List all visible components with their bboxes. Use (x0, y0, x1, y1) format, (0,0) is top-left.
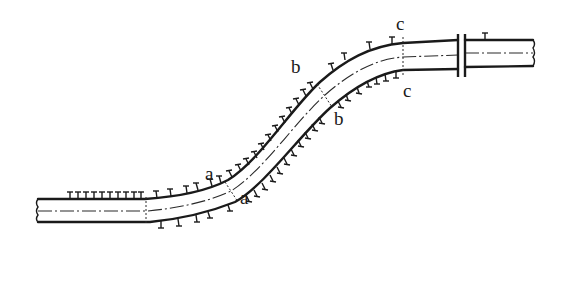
right-break-end (533, 40, 535, 66)
road-alignment-diagram: a a b b c c (0, 0, 569, 282)
bottom-slope-ticks (158, 71, 399, 228)
section-label-b-bottom: b (334, 108, 344, 129)
section-label-a-bottom: a (240, 187, 249, 208)
left-break-end (37, 199, 39, 222)
section-line-a (225, 182, 238, 202)
section-label-c-bottom: c (403, 80, 411, 101)
top-edge-line (38, 40, 458, 199)
section-label-a-top: a (205, 163, 214, 184)
bottom-edge-line-right (465, 66, 533, 67)
section-line-b (317, 84, 332, 107)
section-label-b-top: b (291, 56, 301, 77)
top-slope-ticks (67, 33, 488, 199)
section-label-c-top: c (396, 13, 404, 34)
